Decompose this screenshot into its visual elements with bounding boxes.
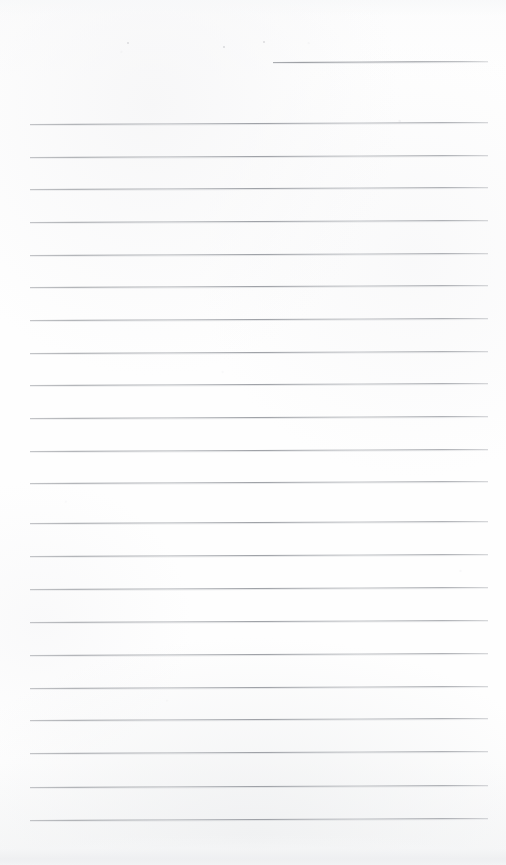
scanned-page xyxy=(0,0,506,865)
rule-line-1 xyxy=(273,61,488,63)
paper-background xyxy=(0,0,506,865)
